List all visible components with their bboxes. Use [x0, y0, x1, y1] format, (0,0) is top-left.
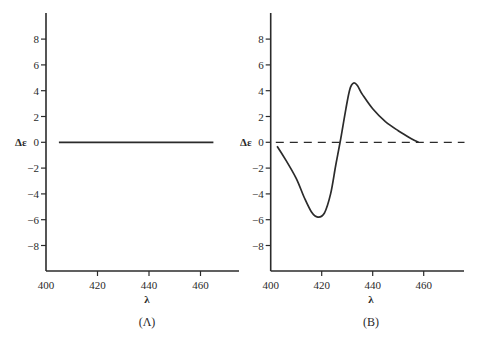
y-tick-label: 4: [258, 85, 264, 97]
x-axis-label: λ: [368, 293, 374, 305]
x-tick-label: 400: [38, 279, 55, 291]
y-axis-label: Δε: [15, 136, 27, 148]
panel-label: (Λ): [139, 315, 156, 329]
y-tick-label: −4: [252, 188, 264, 200]
y-tick-label: 8: [34, 33, 40, 45]
x-tick-label: 400: [262, 279, 279, 291]
y-tick-label: 8: [258, 33, 264, 45]
y-tick-label: −8: [27, 240, 39, 252]
data-curve: [277, 83, 419, 217]
y-tick-label: −8: [252, 240, 264, 252]
y-tick-label: 6: [258, 59, 264, 71]
y-axis-label: Δε: [240, 136, 252, 148]
x-tick-label: 420: [89, 279, 106, 291]
y-tick-label: −4: [27, 188, 39, 200]
x-tick-label: 460: [192, 279, 209, 291]
y-tick-label: 2: [258, 111, 264, 123]
y-tick-label: −2: [252, 162, 264, 174]
x-tick-label: 440: [364, 279, 381, 291]
x-tick-label: 440: [141, 279, 158, 291]
y-tick-label: 0: [258, 136, 264, 148]
x-tick-label: 460: [415, 279, 432, 291]
panel-b: 86420−2−4−6−8400420440460Δελ(B): [240, 13, 465, 329]
y-tick-label: 2: [34, 111, 40, 123]
y-tick-label: 6: [34, 59, 40, 71]
x-tick-label: 420: [313, 279, 330, 291]
x-axis-label: λ: [144, 293, 150, 305]
y-tick-label: 0: [34, 136, 40, 148]
y-tick-label: −2: [27, 162, 39, 174]
panel-a: 86420−2−4−6−8400420440460Δελ(Λ): [15, 13, 239, 329]
figure: 86420−2−4−6−8400420440460Δελ(Λ) 86420−2−…: [0, 0, 477, 337]
y-tick-label: 4: [34, 85, 40, 97]
panel-label: (B): [363, 315, 379, 329]
y-tick-label: −6: [27, 214, 39, 226]
y-tick-label: −6: [252, 214, 264, 226]
